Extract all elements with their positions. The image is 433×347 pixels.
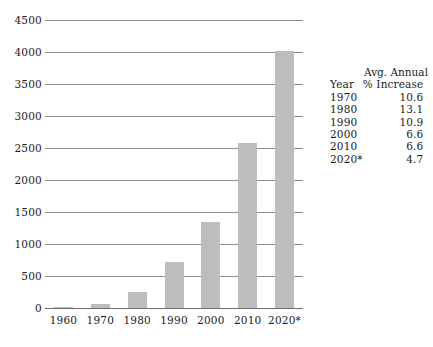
table-cell-pct-increase: 6.6 [363, 128, 433, 140]
bar [238, 143, 257, 308]
x-axis-tick-label: 1990 [160, 314, 188, 326]
table-cell-pct-increase: 13.1 [363, 103, 433, 115]
table-cell-pct-increase: 10.9 [363, 116, 433, 128]
bar-chart: 450040003500300025002000150010005000 196… [0, 0, 310, 347]
table-row: 2020*4.7 [330, 153, 433, 165]
table-row: 20006.6 [330, 128, 433, 140]
y-axis-tick-label: 0 [2, 303, 42, 314]
y-axis-tick-label: 3500 [2, 79, 42, 90]
gridline [45, 116, 303, 117]
y-axis-tick-label: 2500 [2, 143, 42, 154]
table-row: 199010.9 [330, 116, 433, 128]
table-row: 197010.6 [330, 91, 433, 103]
y-axis-tick-label: 3000 [2, 111, 42, 122]
gridline [45, 244, 303, 245]
table-cell-pct-increase: 6.6 [363, 140, 433, 152]
y-axis-tick-label: 4500 [2, 15, 42, 26]
table-header-year: Year [330, 78, 363, 90]
bar [54, 307, 73, 308]
bar [201, 222, 220, 308]
table-cell-pct-increase: 4.7 [363, 153, 433, 165]
gridline [45, 52, 303, 53]
table-cell-year: 1980 [330, 103, 363, 115]
table-header-row: Year % Increase [330, 78, 433, 90]
y-axis-tick-label: 2000 [2, 175, 42, 186]
plot-area [45, 20, 303, 308]
table-header-pct-increase: % Increase [363, 78, 433, 90]
gridline [45, 148, 303, 149]
x-axis-tick-label: 2010 [234, 314, 262, 326]
table-body: 197010.6198013.1199010.920006.620106.620… [330, 91, 433, 165]
table-cell-pct-increase: 10.6 [363, 91, 433, 103]
gridline [45, 180, 303, 181]
table-header-avg-annual: Avg. Annual [330, 66, 430, 78]
gridline [45, 20, 303, 21]
y-axis-tick-labels: 450040003500300025002000150010005000 [0, 20, 42, 308]
bar [165, 262, 184, 308]
y-axis-tick-label: 1000 [2, 239, 42, 250]
table: Year % Increase 197010.6198013.1199010.9… [330, 78, 433, 165]
table-row: 20106.6 [330, 140, 433, 152]
table-cell-year: 1970 [330, 91, 363, 103]
table-cell-year: 2020* [330, 153, 363, 165]
gridline [45, 84, 303, 85]
bar [275, 51, 294, 308]
x-axis-tick-label: 1980 [123, 314, 151, 326]
y-axis-tick-label: 1500 [2, 207, 42, 218]
x-axis-tick-labels: 1960197019801990200020102020* [45, 314, 303, 334]
y-axis-tick-label: 500 [2, 271, 42, 282]
x-axis-tick-label: 2000 [197, 314, 225, 326]
table-row: 198013.1 [330, 103, 433, 115]
gridline [45, 308, 303, 309]
gridline [45, 212, 303, 213]
table-cell-year: 2010 [330, 140, 363, 152]
bar [91, 304, 110, 308]
bar [128, 292, 147, 308]
table-cell-year: 1990 [330, 116, 363, 128]
avg-annual-increase-table: Avg. Annual Year % Increase 197010.61980… [330, 66, 430, 165]
table-cell-year: 2000 [330, 128, 363, 140]
y-axis-tick-label: 4000 [2, 47, 42, 58]
x-axis-tick-label: 1970 [87, 314, 115, 326]
x-axis-tick-label: 2020* [268, 314, 301, 326]
x-axis-tick-label: 1960 [50, 314, 78, 326]
